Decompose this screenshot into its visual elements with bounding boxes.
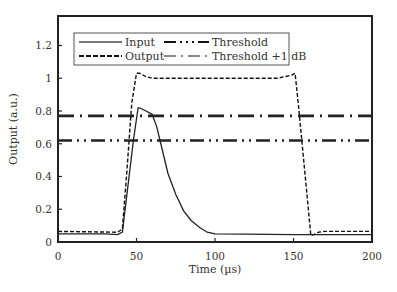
x-tick-label: 150 [283,250,303,262]
chart: 05010015020000.20.40.60.811.2 Input Outp… [0,0,397,292]
y-tick-label: 0.2 [35,203,52,215]
y-tick-label: 0 [45,236,52,248]
y-tick-label: 0.4 [35,170,52,182]
x-tick-label: 0 [55,250,62,262]
y-tick-label: 1.2 [35,39,52,51]
y-axis-label: Output (a.u.) [7,93,20,165]
legend-label-threshold-1db: Threshold +1 dB [212,50,306,63]
legend: Input Output Threshold Threshold +1 dB [74,33,306,65]
y-tick-label: 0.6 [35,138,52,150]
legend-label-output: Output [125,50,165,63]
x-tick-label: 50 [130,250,143,262]
legend-label-input: Input [125,36,156,49]
y-tick-label: 1 [45,72,52,84]
x-tick-label: 200 [362,250,382,262]
legend-label-threshold: Threshold [212,36,268,49]
x-tick-label: 100 [205,250,225,262]
y-tick-label: 0.8 [35,105,52,117]
x-axis-label: Time (µs) [189,263,242,276]
